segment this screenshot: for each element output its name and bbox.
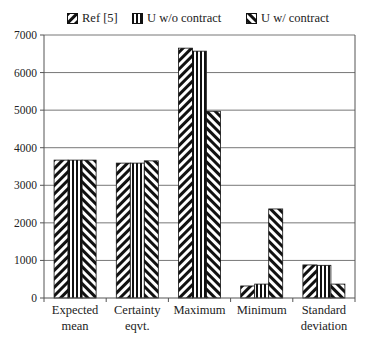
- bar: [179, 48, 193, 298]
- x-tick-label: eqvt.: [125, 319, 150, 333]
- bar: [130, 163, 144, 298]
- y-tick-label: 6000: [14, 67, 37, 79]
- bar: [68, 160, 82, 298]
- bar: [116, 163, 130, 298]
- bar: [255, 284, 269, 298]
- x-tick-label: mean: [62, 319, 90, 333]
- x-tick-label: deviation: [301, 319, 348, 333]
- x-tick-label: Certainty: [114, 303, 161, 317]
- x-tick-label: Maximum: [173, 303, 225, 317]
- bar: [193, 51, 207, 298]
- bar: [331, 284, 345, 298]
- bar: [269, 209, 283, 298]
- bar: [303, 265, 317, 298]
- x-tick-label: Standard: [302, 303, 347, 317]
- bar: [317, 265, 331, 298]
- x-tick-label: Expected: [52, 303, 99, 317]
- chart-figure: Ref [5] U w/o contract U w/ contract 010…: [0, 0, 368, 339]
- y-tick-label: 2000: [14, 217, 37, 229]
- bar: [241, 286, 255, 298]
- y-tick-label: 4000: [14, 142, 37, 154]
- x-tick-label: Minimum: [237, 303, 287, 317]
- bar: [82, 160, 96, 298]
- y-tick-label: 5000: [14, 104, 37, 116]
- bar: [207, 111, 221, 298]
- bar: [54, 160, 68, 298]
- bar: [144, 161, 158, 298]
- y-tick-label: 0: [31, 292, 37, 304]
- y-tick-label: 3000: [14, 179, 37, 191]
- y-tick-label: 1000: [14, 254, 37, 266]
- y-tick-label: 7000: [14, 29, 37, 41]
- plot-area: 01000200030004000500060007000Expectedmea…: [0, 0, 368, 339]
